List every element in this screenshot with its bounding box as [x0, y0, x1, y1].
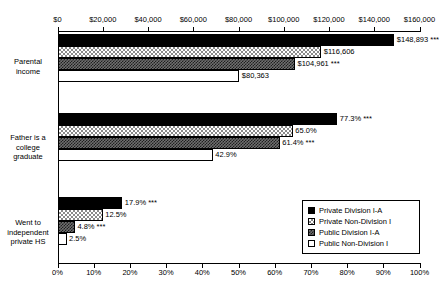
legend-label: Private Division I-A [319, 206, 382, 215]
bar-1-series-2 [58, 46, 322, 58]
top-axis-tick [329, 27, 330, 31]
bottom-axis-tick [94, 264, 95, 268]
category-label-1: Parentalincome [0, 57, 56, 76]
bar-value-label: 12.5% [105, 210, 126, 219]
bar-3-series-4 [58, 233, 67, 245]
legend: Private Division I-APrivate Non-Division… [302, 200, 420, 254]
bar-value-label: 65.0% [295, 126, 316, 135]
top-axis-tick [239, 27, 240, 31]
legend-label: Public Non-Division I [319, 239, 388, 248]
category-label-line: private HS [0, 237, 56, 247]
bar-2-series-4 [58, 149, 213, 161]
legend-swatch-s4 [308, 240, 315, 247]
legend-item[interactable]: Public Division I-A [308, 227, 413, 238]
top-axis-tick [374, 27, 375, 31]
category-label-line: Parental [0, 57, 56, 67]
top-axis-tick [420, 27, 421, 31]
category-label-line: college [0, 143, 56, 153]
bar-value-label: 4.8% *** [77, 222, 105, 231]
bar-1-series-3 [58, 58, 295, 70]
category-label-3: Went toindependentprivate HS [0, 218, 56, 247]
bar-value-label: $148,893 *** [397, 35, 439, 44]
legend-swatch-s2 [308, 218, 315, 225]
bar-2-series-2 [58, 125, 293, 137]
bar-2-series-3 [58, 137, 280, 149]
top-axis-tick [103, 27, 104, 31]
category-label-line: independent [0, 228, 56, 238]
bar-3-series-1 [58, 197, 123, 209]
bottom-axis-tick [58, 264, 59, 268]
legend-item[interactable]: Private Division I-A [308, 205, 413, 216]
bottom-axis-tick [275, 264, 276, 268]
bottom-axis-tick [166, 264, 167, 268]
top-axis-tick [284, 27, 285, 31]
top-axis-tick-label: $160,000 [380, 16, 444, 24]
bar-value-label: 42.9% [215, 150, 236, 159]
bar-1-series-4 [58, 70, 240, 82]
legend-item[interactable]: Private Non-Division I [308, 216, 413, 227]
bottom-axis-tick [239, 264, 240, 268]
bar-value-label: $80,363 [242, 71, 269, 80]
legend-label: Private Non-Division I [319, 217, 391, 226]
top-axis-tick [193, 27, 194, 31]
legend-swatch-s3 [308, 229, 315, 236]
bar-value-label: 77.3% *** [340, 114, 372, 123]
bar-value-label: 61.4% *** [282, 138, 314, 147]
bottom-axis-tick-label: 100% [380, 269, 444, 277]
legend-label: Public Division I-A [319, 228, 379, 237]
bar-value-label: 17.9% *** [125, 198, 157, 207]
bottom-axis-tick [383, 264, 384, 268]
bottom-axis-tick [130, 264, 131, 268]
category-label-line: Father is a [0, 133, 56, 143]
category-label-line: income [0, 67, 56, 77]
top-axis-tick [148, 27, 149, 31]
bar-3-series-2 [58, 209, 103, 221]
category-label-line: graduate [0, 152, 56, 162]
bottom-axis-tick [420, 264, 421, 268]
legend-item[interactable]: Public Non-Division I [308, 238, 413, 249]
bar-3-series-3 [58, 221, 75, 233]
category-label-2: Father is acollegegraduate [0, 133, 56, 162]
bar-value-label: 2.5% [69, 234, 86, 243]
bar-value-label: $116,606 [324, 47, 355, 56]
bottom-axis-tick [202, 264, 203, 268]
category-label-line: Went to [0, 218, 56, 228]
bar-1-series-1 [58, 34, 395, 46]
bottom-axis-tick [311, 264, 312, 268]
legend-swatch-s1 [308, 207, 315, 214]
bar-value-label: $104,961 *** [297, 59, 339, 68]
bar-2-series-1 [58, 113, 338, 125]
top-axis-line [58, 31, 421, 32]
bottom-axis-tick [347, 264, 348, 268]
